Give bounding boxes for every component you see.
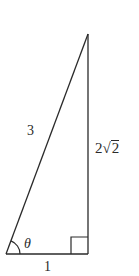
vertical-coef: 2	[95, 140, 103, 156]
angle-theta-label: θ	[24, 237, 31, 251]
angle-arc	[11, 241, 20, 254]
right-angle-marker	[71, 237, 88, 254]
right-triangle-diagram	[0, 0, 139, 276]
hypotenuse-label: 3	[27, 124, 34, 138]
radical-sign: √	[103, 140, 111, 156]
base-label: 1	[44, 260, 51, 274]
hypotenuse-side	[6, 34, 88, 254]
vertical-side-label: 2√2	[95, 139, 119, 156]
radicand: 2	[111, 140, 120, 156]
